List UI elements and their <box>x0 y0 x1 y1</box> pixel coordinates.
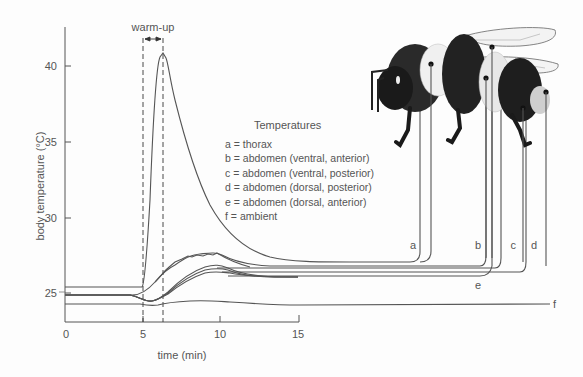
callout-f: f <box>553 298 557 310</box>
warm-up-annotation <box>143 37 163 322</box>
callout-d: d <box>531 239 537 251</box>
legend-item-b: b = abdomen (ventral, anterior) <box>225 151 374 166</box>
legend: Temperatures a = thorax b = abdomen (ven… <box>225 118 374 224</box>
y-tick-40: 40 <box>45 60 57 72</box>
x-tick-10: 10 <box>214 328 226 340</box>
legend-item-a: a = thorax <box>225 137 374 152</box>
x-tick-5: 5 <box>140 328 146 340</box>
callout-labels: a b c d e f <box>410 239 557 310</box>
callout-a: a <box>410 239 417 251</box>
warm-up-label: warm-up <box>131 21 175 33</box>
legend-title: Temperatures <box>254 118 403 133</box>
legend-item-e: e = abdomen (dorsal, anterior) <box>225 195 374 210</box>
x-axis-label: time (min) <box>158 349 207 361</box>
y-tick-labels: 40 35 30 25 <box>45 60 57 299</box>
callout-c: c <box>511 239 517 251</box>
x-tick-0: 0 <box>63 328 69 340</box>
legend-item-f: f = ambient <box>225 209 374 224</box>
x-tick-15: 15 <box>292 328 304 340</box>
y-axis-label: body temperature (°C) <box>34 111 46 261</box>
series-f-ambient <box>65 301 550 306</box>
legend-item-d: d = abdomen (dorsal, posterior) <box>225 180 374 195</box>
legend-item-c: c = abdomen (ventral, posterior) <box>225 166 374 181</box>
x-tick-labels: 0 5 10 15 <box>63 328 304 340</box>
y-tick-30: 30 <box>45 212 57 224</box>
y-tick-35: 35 <box>45 136 57 148</box>
callout-e: e <box>475 279 481 291</box>
y-tick-25: 25 <box>45 287 57 299</box>
callout-b: b <box>475 239 481 251</box>
series-c <box>65 265 298 301</box>
